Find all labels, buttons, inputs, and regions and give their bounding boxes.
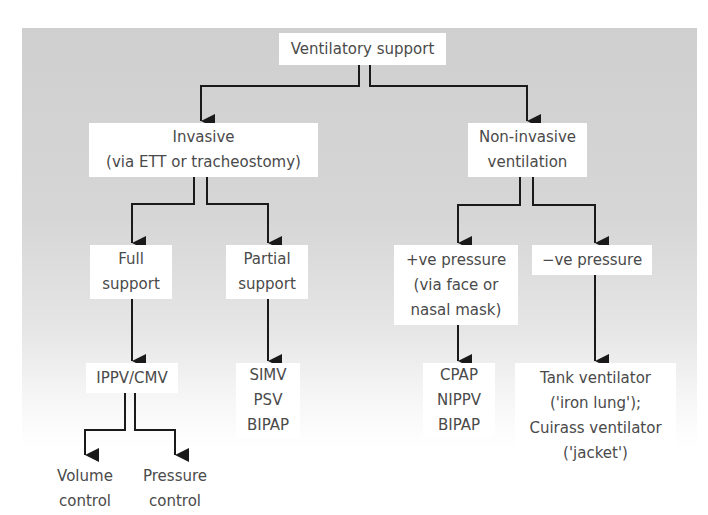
node-label: support <box>102 272 160 297</box>
edge-ippv-pressure <box>135 393 175 455</box>
node-label: −ve pressure <box>542 248 642 273</box>
edge-noninvasive-negative <box>533 177 595 243</box>
node-label: ('jacket') <box>563 441 628 466</box>
node-ippv-cmv: IPPV/CMV <box>86 363 178 393</box>
node-label: +ve pressure <box>406 248 506 273</box>
node-label: NIPPV <box>437 388 481 413</box>
node-volume-control: Volume control <box>45 464 125 514</box>
edge-invasive-full <box>132 177 194 243</box>
edge-noninvasive-positive <box>458 177 520 243</box>
node-pressure-control: Pressure control <box>132 464 218 514</box>
node-label: support <box>238 272 296 297</box>
node-ventilatory-support: Ventilatory support <box>279 33 446 65</box>
node-label: control <box>149 489 201 514</box>
node-label: Non-invasive <box>479 125 576 150</box>
node-label: Full <box>118 247 144 272</box>
node-label: control <box>59 489 111 514</box>
node-niv-modes: CPAP NIPPV BIPAP <box>423 363 495 437</box>
node-partial-modes: SIMV PSV BIPAP <box>236 363 300 438</box>
node-label: CPAP <box>440 363 478 388</box>
node-label: Invasive <box>172 125 234 150</box>
node-label: (via ETT or tracheostomy) <box>106 150 301 175</box>
node-label: Partial <box>243 247 290 272</box>
edge-ippv-volume <box>85 393 125 455</box>
node-invasive: Invasive (via ETT or tracheostomy) <box>89 123 318 177</box>
node-label: Cuirass ventilator <box>529 416 661 441</box>
node-label: Volume <box>57 464 113 489</box>
node-partial-support: Partial support <box>226 245 308 299</box>
node-label: PSV <box>254 388 283 413</box>
node-positive-pressure: +ve pressure (via face or nasal mask) <box>394 245 518 325</box>
node-label: (via face or <box>414 273 499 298</box>
node-label: Pressure <box>143 464 207 489</box>
node-label: Tank ventilator <box>540 366 651 391</box>
node-label: BIPAP <box>438 413 480 438</box>
node-label: Ventilatory support <box>291 37 435 62</box>
node-label: IPPV/CMV <box>96 366 168 391</box>
node-full-support: Full support <box>90 245 172 299</box>
node-non-invasive: Non-invasive ventilation <box>468 123 587 177</box>
node-negative-devices: Tank ventilator ('iron lung'); Cuirass v… <box>515 363 676 469</box>
edge-root-invasive <box>201 65 359 121</box>
node-label: nasal mask) <box>411 298 502 323</box>
edge-invasive-partial <box>207 177 268 243</box>
node-label: ventilation <box>488 150 568 175</box>
node-label: SIMV <box>249 363 286 388</box>
node-label: BIPAP <box>247 413 289 438</box>
edge-root-noninvasive <box>370 65 527 121</box>
node-negative-pressure: −ve pressure <box>532 245 652 275</box>
node-label: ('iron lung'); <box>550 391 641 416</box>
